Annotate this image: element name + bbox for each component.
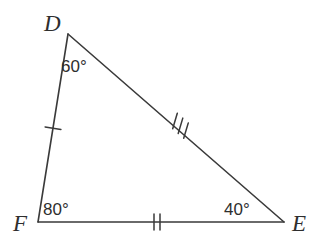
angle-label-D: 60° [61, 58, 87, 75]
side-DE [68, 34, 284, 222]
vertex-label-F: F [13, 212, 27, 235]
vertex-label-E: E [292, 212, 306, 235]
tick-marks-side-DE [173, 113, 189, 138]
angle-label-E: 40° [224, 201, 250, 218]
vertex-label-D: D [44, 12, 61, 35]
angle-label-F: 80° [43, 201, 69, 218]
triangle-diagram-canvas: D F E 60° 80° 40° [0, 0, 327, 252]
